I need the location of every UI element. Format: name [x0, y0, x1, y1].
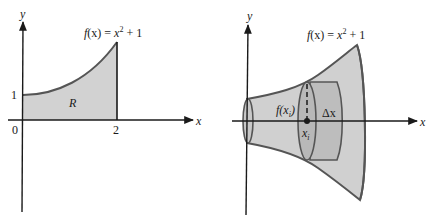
y-axis: [22, 22, 23, 212]
function-label: f(x) = x2 + 1: [84, 25, 142, 40]
sample-point: [304, 118, 310, 124]
x-axis-label: x: [195, 114, 202, 128]
delta-x-label: Δx: [322, 106, 336, 120]
region-label: R: [68, 96, 77, 110]
y-axis-label-right: y: [246, 9, 253, 23]
radius-label: f(xi): [276, 103, 295, 119]
y-axis-right: [246, 25, 248, 215]
x-axis-label-right: x: [419, 115, 426, 129]
tick-label-2: 2: [113, 123, 119, 137]
tick-label-1: 1: [11, 88, 17, 102]
origin-label: 0: [12, 123, 18, 137]
right-panel: y x f(x) = x2 + 1 f(xi) xi Δx: [232, 9, 426, 215]
figure: y x 1 0 2 R f(x) = x2 + 1 y x f(x) = x: [0, 0, 432, 222]
y-axis-label: y: [19, 7, 26, 21]
function-label-right: f(x) = x2 + 1: [307, 27, 365, 42]
left-panel: y x 1 0 2 R f(x) = x2 + 1: [8, 7, 202, 212]
